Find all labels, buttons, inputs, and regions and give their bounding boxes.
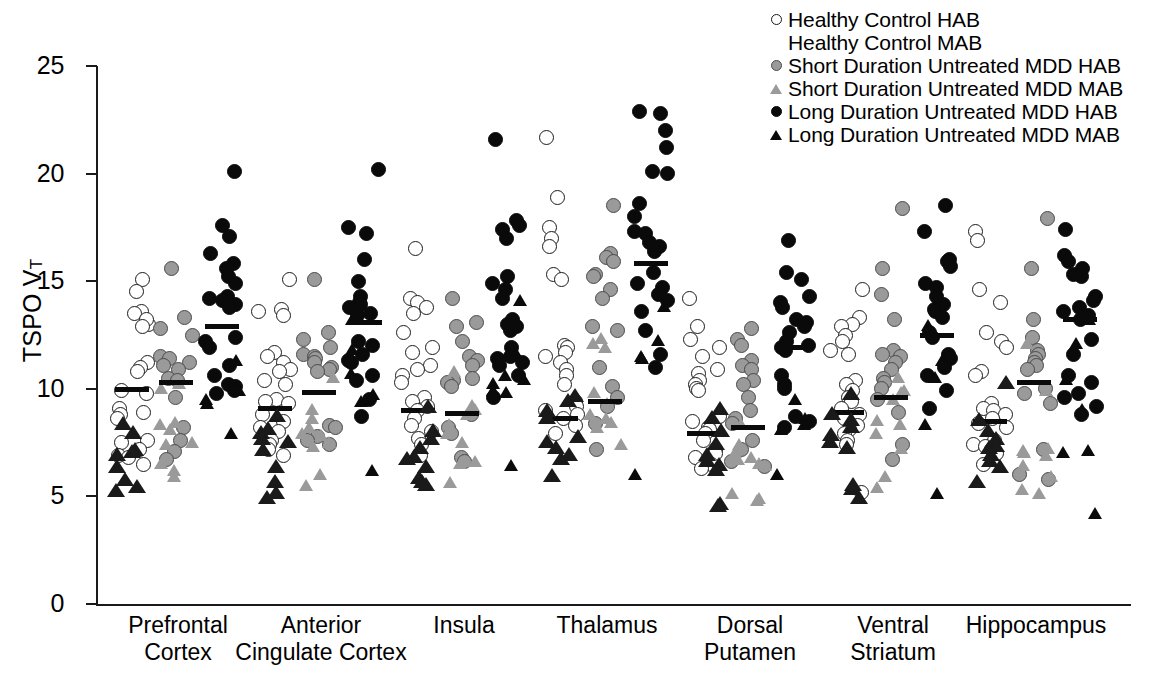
data-point-black-tri — [628, 468, 642, 480]
x-axis-group-label-line1: Thalamus — [557, 612, 658, 638]
data-point-gray-circle — [1024, 261, 1039, 276]
data-point-open-circle — [276, 448, 291, 463]
data-point-open-circle — [136, 405, 151, 420]
data-point-gray-circle — [606, 254, 621, 269]
data-point-black-tri — [509, 347, 523, 359]
data-point-black-circle — [653, 347, 668, 362]
data-point-open-tri — [561, 395, 575, 407]
data-point-gray-tri — [758, 459, 772, 471]
data-point-open-circle — [691, 366, 706, 381]
data-point-black-tri — [918, 418, 932, 430]
data-point-gray-circle — [469, 315, 484, 330]
data-point-black-circle — [349, 373, 364, 388]
data-point-open-circle — [127, 306, 142, 321]
data-point-open-circle — [839, 377, 854, 392]
triangle-outline — [842, 412, 860, 426]
y-axis-tick — [86, 280, 97, 282]
data-point-open-tri — [281, 436, 295, 448]
y-axis-tick — [86, 173, 97, 175]
data-point-open-circle — [136, 457, 151, 472]
data-point-gray-circle — [322, 437, 337, 452]
mean-line — [731, 425, 765, 430]
data-point-gray-tri — [604, 416, 618, 428]
data-point-gray-circle — [1028, 351, 1043, 366]
data-point-gray-tri — [598, 341, 612, 353]
data-point-open-circle — [986, 403, 1001, 418]
data-point-open-tri — [709, 464, 723, 476]
data-point-open-circle — [424, 424, 439, 439]
data-point-black-circle — [503, 323, 518, 338]
data-point-gray-tri — [752, 492, 766, 504]
data-point-gray-circle — [875, 261, 890, 276]
data-point-gray-tri — [731, 453, 745, 465]
y-axis-title-subscript: T — [27, 259, 46, 269]
data-point-open-circle — [557, 338, 572, 353]
data-point-open-tri — [545, 470, 559, 482]
data-point-gray-circle — [462, 349, 477, 364]
y-axis-tick-label: 0 — [4, 591, 64, 616]
data-point-open-tri — [426, 425, 440, 437]
data-point-black-circle — [782, 325, 797, 340]
data-point-gray-circle — [746, 373, 761, 388]
data-point-open-circle — [984, 396, 999, 411]
data-point-black-circle — [202, 291, 217, 306]
triangle-outline — [543, 468, 561, 482]
triangle-outline — [698, 447, 716, 461]
data-point-black-circle — [503, 349, 518, 364]
data-point-black-circle — [220, 289, 235, 304]
legend: Healthy Control HABHealthy Control MABSh… — [766, 8, 1146, 146]
gray-triangle-marker — [766, 77, 786, 100]
data-point-gray-circle — [606, 198, 621, 213]
data-point-gray-tri — [295, 427, 309, 439]
triangle-outline — [411, 440, 429, 454]
data-point-gray-circle — [876, 371, 891, 386]
data-point-open-tri — [128, 444, 142, 456]
data-point-open-circle — [979, 325, 994, 340]
data-point-open-tri — [412, 472, 426, 484]
data-point-open-tri — [709, 438, 723, 450]
x-axis-group-label: Hippocampus — [941, 612, 1131, 639]
data-point-gray-circle — [730, 332, 745, 347]
data-point-open-tri — [269, 461, 283, 473]
data-point-open-circle — [406, 306, 421, 321]
data-point-open-circle — [133, 360, 148, 375]
gray-circle-marker — [766, 54, 786, 77]
data-point-open-tri — [972, 414, 986, 426]
data-point-gray-tri — [594, 332, 608, 344]
data-point-gray-circle — [588, 416, 603, 431]
data-point-black-circle — [1074, 407, 1089, 422]
data-point-gray-tri — [447, 365, 461, 377]
data-point-gray-circle — [585, 319, 600, 334]
data-point-gray-circle — [307, 355, 322, 370]
data-point-open-tri — [269, 487, 283, 499]
data-point-gray-tri — [752, 457, 766, 469]
data-point-open-circle — [114, 383, 129, 398]
data-point-gray-tri — [734, 418, 748, 430]
data-point-open-circle — [835, 334, 850, 349]
data-point-open-tri — [846, 479, 860, 491]
data-point-black-tri — [921, 319, 935, 331]
data-point-black-tri — [517, 373, 531, 385]
data-point-gray-tri — [455, 436, 469, 448]
data-point-open-tri — [261, 423, 275, 435]
data-point-gray-circle — [323, 340, 338, 355]
data-point-black-circle — [202, 340, 217, 355]
data-point-open-circle — [695, 349, 710, 364]
data-point-gray-circle — [444, 426, 459, 441]
data-point-black-circle — [632, 104, 647, 119]
data-point-black-circle — [658, 123, 673, 138]
data-point-gray-tri — [468, 455, 482, 467]
data-point-gray-circle — [328, 420, 343, 435]
data-point-open-circle — [712, 409, 727, 424]
data-point-open-tri — [424, 433, 438, 445]
data-point-open-tri — [970, 476, 984, 488]
data-point-open-tri — [126, 427, 140, 439]
data-point-gray-tri — [302, 421, 316, 433]
data-point-black-circle — [801, 338, 816, 353]
data-point-gray-circle — [610, 323, 625, 338]
data-point-black-circle — [653, 106, 668, 121]
data-point-gray-circle — [310, 429, 325, 444]
data-point-gray-circle — [167, 444, 182, 459]
data-point-open-circle — [251, 304, 266, 319]
triangle-outline — [108, 459, 126, 473]
